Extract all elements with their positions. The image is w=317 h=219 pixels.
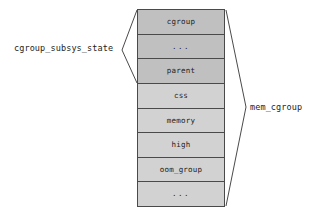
right-brace-icon	[226, 10, 246, 206]
annotation-label-mem-cgroup: mem_cgroup	[250, 102, 302, 112]
struct-field-label: ...	[172, 190, 190, 198]
struct-field-label: cgroup	[167, 18, 195, 26]
struct-field-row: cgroup	[138, 10, 224, 35]
struct-field-row: ...	[138, 35, 224, 60]
diagram-canvas: cgroup ... parent css memory high oom_gr…	[0, 0, 317, 219]
struct-field-label: ...	[172, 43, 190, 51]
annotation-label-cgroup-subsys-state: cgroup_subsys_state	[14, 43, 113, 53]
struct-field-label: oom_group	[160, 166, 202, 174]
struct-field-row: parent	[138, 59, 224, 84]
struct-field-row: oom_group	[138, 158, 224, 183]
struct-field-label: css	[174, 92, 188, 100]
struct-field-row: ...	[138, 182, 224, 206]
left-brace-icon	[122, 10, 137, 83]
struct-field-label: memory	[167, 117, 195, 125]
struct-field-label: high	[172, 141, 191, 149]
struct-field-row: high	[138, 133, 224, 158]
struct-field-label: parent	[167, 67, 195, 75]
struct-field-row: css	[138, 84, 224, 109]
struct-field-row: memory	[138, 109, 224, 134]
struct-field-table: cgroup ... parent css memory high oom_gr…	[137, 9, 225, 207]
